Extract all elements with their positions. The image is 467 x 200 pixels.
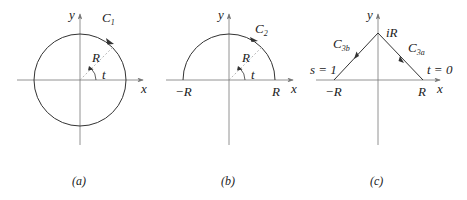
x-axis-label: x	[436, 81, 443, 96]
apex-label: iR	[386, 25, 398, 40]
caption-b: (b)	[221, 174, 235, 188]
angle-label: t	[251, 67, 255, 82]
y-axis-label: y	[365, 7, 373, 22]
tick-minus-r: −R	[175, 84, 192, 99]
curve-label-c2: C2	[255, 21, 268, 38]
direction-arrow-icon	[250, 37, 258, 42]
panel-c: iR C3a C3b s = 1 t = 0 x y −R R (c)	[310, 7, 453, 188]
param-s-label: s = 1	[310, 62, 337, 77]
tick-minus-r: −R	[325, 84, 342, 99]
curve-label-c3b: C3b	[333, 36, 350, 53]
radius-label: R	[241, 50, 250, 65]
caption-c: (c)	[370, 174, 383, 188]
tick-r: R	[271, 84, 280, 99]
panel-a: C1 R t x y (a)	[17, 7, 147, 188]
radius-label: R	[91, 50, 100, 65]
tick-r: R	[417, 84, 426, 99]
direction-arrow-c3b-icon	[354, 52, 359, 60]
contour-diagram: C1 R t x y (a) C2 R t x y −R R (b) iR C3…	[0, 0, 467, 200]
caption-a: (a)	[72, 174, 86, 188]
y-axis-label: y	[216, 7, 224, 22]
curve-label-c1: C1	[102, 10, 115, 27]
y-axis-label: y	[67, 7, 75, 22]
angle-arc	[91, 69, 96, 80]
x-axis-label: x	[290, 81, 297, 96]
angle-arc	[240, 69, 245, 80]
angle-label: t	[102, 67, 106, 82]
panel-b: C2 R t x y −R R (b)	[166, 7, 297, 188]
param-t-label: t = 0	[427, 62, 453, 77]
x-axis-label: x	[140, 81, 147, 96]
curve-label-c3a: C3a	[408, 40, 425, 57]
